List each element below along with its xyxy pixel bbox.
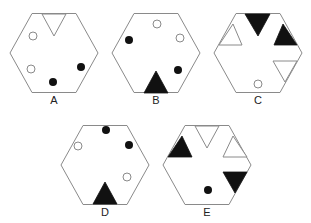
option-c[interactable] [214,14,302,93]
option-label: B [152,94,159,106]
option-label: D [101,206,109,218]
black-circle-icon [77,63,85,71]
black-circle-icon [204,186,212,194]
white-circle-icon [254,80,262,88]
option-label: C [254,94,262,106]
option-label: E [203,206,210,218]
white-circle-icon [153,20,161,28]
option-d[interactable] [61,126,149,205]
black-circle-icon [49,78,57,86]
hexagon-options-diagram [0,0,311,223]
white-circle-icon [176,34,184,42]
white-circle-icon [27,65,35,73]
black-circle-icon [102,126,110,134]
option-e[interactable] [163,126,251,205]
white-circle-icon [123,173,131,181]
black-circle-icon [125,141,133,149]
option-b[interactable] [112,14,200,94]
option-a[interactable] [10,14,98,93]
black-circle-icon [125,36,133,44]
figure: ABCDE [0,0,311,223]
white-circle-icon [74,142,82,150]
option-label: A [50,94,57,106]
white-circle-icon [29,32,37,40]
black-circle-icon [174,66,182,74]
